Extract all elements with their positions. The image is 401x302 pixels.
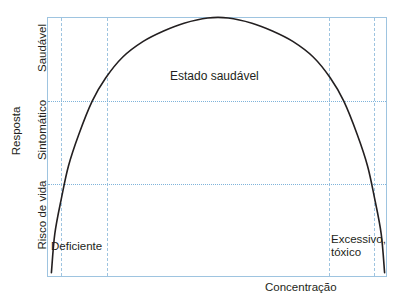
plot-area: Estado saudável Deficiente Excessivo, tó… <box>47 17 387 277</box>
annotation-estado-saudavel: Estado saudável <box>170 70 259 83</box>
annotation-deficiente: Deficiente <box>51 240 102 253</box>
y-axis-title: Resposta <box>10 91 22 171</box>
x-axis-title: Concentração <box>265 281 337 293</box>
dose-response-chart: Resposta Saudável Sintomático Risco de v… <box>0 0 401 302</box>
annotation-excessivo-toxico: Excessivo, tóxico <box>331 233 386 259</box>
